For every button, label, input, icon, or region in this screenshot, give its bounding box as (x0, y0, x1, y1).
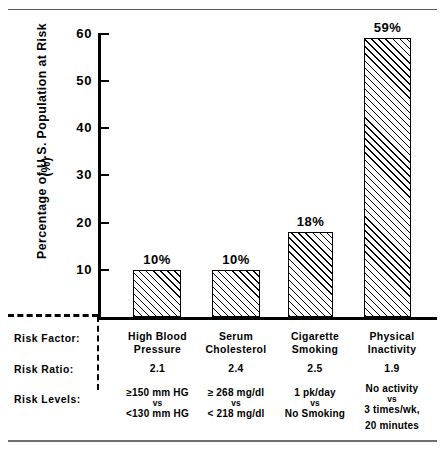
y-axis-tick-20 (101, 222, 109, 224)
y-axis-title: Percentage of U.S. Population at Risk (35, 1, 49, 281)
risk-level-3-line2: No Smoking (285, 408, 345, 419)
y-axis-line (98, 33, 101, 319)
top-divider-rule (8, 9, 437, 10)
risk-factor-2-line1: Serum (219, 331, 253, 342)
risk-factor-3-line1: Cigarette (291, 331, 339, 342)
y-axis-ticklabel-10: 10 (48, 262, 92, 277)
bar-value-physical-inactivity: 59% (364, 20, 411, 35)
risk-level-4-line3: 20 minutes (342, 420, 442, 432)
risk-factor-4-line1: Physical (370, 331, 415, 342)
risk-factor-bar-chart-figure: Percentage of U.S. Population at Risk (%… (0, 0, 445, 456)
y-axis-tick-50 (101, 80, 109, 82)
risk-factor-3-line2: Smoking (292, 344, 338, 355)
bar-serum-cholesterol (212, 270, 260, 317)
cell-risk-ratio-4: 1.9 (344, 362, 440, 375)
row-label-risk-levels: Risk Levels: (14, 394, 81, 405)
bar-value-cigarette-smoking: 18% (288, 214, 333, 229)
bar-physical-inactivity (364, 38, 411, 317)
y-axis-tick-30 (101, 174, 109, 176)
y-axis-tick-10 (101, 269, 109, 271)
row-label-risk-ratio: Risk Ratio: (14, 364, 74, 375)
risk-factor-4-line2: Inactivity (368, 344, 417, 355)
y-axis-ticklabel-40: 40 (48, 120, 92, 135)
risk-factor-1-line1: High Blood (128, 331, 187, 342)
risk-level-4-line1: No activity (366, 383, 419, 394)
bar-cigarette-smoking (288, 232, 333, 317)
risk-level-2-line2: < 218 mg/dl (208, 408, 265, 419)
x-axis-baseline (98, 317, 437, 320)
cell-risk-levels-4: No activity vs 3 times/wk, 20 minutes (342, 383, 442, 432)
risk-factor-1-line2: Pressure (134, 344, 181, 355)
y-axis-ticklabel-30: 30 (48, 167, 92, 182)
risk-level-4-line2: 3 times/wk, (364, 404, 420, 415)
y-axis-ticklabel-50: 50 (48, 73, 92, 88)
bar-value-high-blood-pressure: 10% (133, 252, 181, 267)
cell-risk-factor-4: Physical Inactivity (344, 330, 440, 356)
y-axis-ticklabel-20: 20 (48, 215, 92, 230)
y-axis-tick-40 (101, 127, 109, 129)
bottom-divider-rule (8, 440, 437, 442)
risk-level-1-line1: ≥150 mm HG (126, 387, 189, 398)
risk-level-1-line2: <130 mm HG (126, 408, 189, 419)
vertical-dashed-divider (97, 316, 99, 390)
risk-factor-2-line2: Cholesterol (205, 344, 266, 355)
row-label-risk-factor: Risk Factor: (14, 333, 80, 344)
risk-level-4-vs: vs (342, 395, 442, 404)
risk-level-2-line1: ≥ 268 mg/dl (208, 387, 265, 398)
bar-high-blood-pressure (133, 270, 181, 317)
bar-value-serum-cholesterol: 10% (212, 252, 260, 267)
y-axis-ticklabel-60: 60 (48, 26, 92, 41)
risk-level-3-line1: 1 pk/day (294, 387, 336, 398)
horizontal-dashed-divider (8, 314, 98, 317)
y-axis-tick-60 (101, 33, 109, 35)
